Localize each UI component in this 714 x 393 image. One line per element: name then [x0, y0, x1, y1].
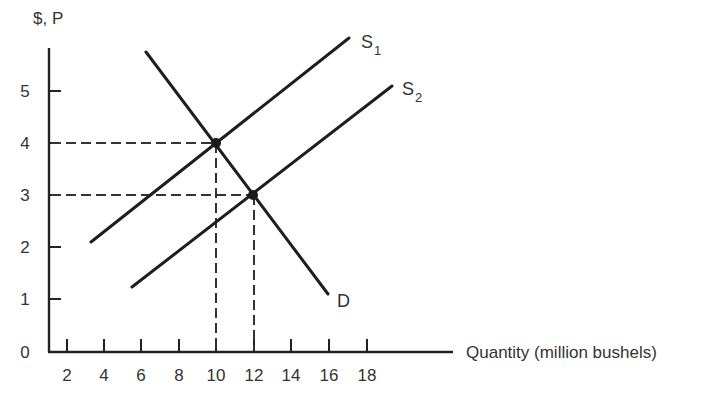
x-tick-label: 16: [320, 366, 339, 385]
label-s2-main: S: [402, 79, 414, 99]
y-tick-label: 5: [20, 82, 29, 101]
y-tick-label: 0: [20, 343, 29, 362]
x-tick-label: 8: [174, 366, 183, 385]
x-tick-label: 12: [245, 366, 264, 385]
label-s2-sub: 2: [415, 90, 422, 105]
x-axis-title: Quantity (million bushels): [466, 343, 657, 362]
label-s2: S 2: [402, 79, 422, 105]
y-tick-label: 3: [20, 186, 29, 205]
x-tick-labels: 2 4 6 8 10 12 14 16 18: [62, 366, 376, 385]
label-s1-sub: 1: [374, 43, 381, 58]
supply-curve-s2: [132, 86, 392, 287]
x-tick-label: 10: [207, 366, 226, 385]
label-s1: S 1: [361, 32, 381, 58]
label-s1-main: S: [361, 32, 373, 52]
label-d: D: [337, 291, 350, 311]
x-tick-label: 2: [62, 366, 71, 385]
equilibrium-point-e1: [211, 138, 221, 148]
x-tick-label: 14: [282, 366, 301, 385]
x-tick-label: 6: [136, 366, 145, 385]
y-axis-title: $, P: [33, 9, 63, 28]
supply-demand-chart: $, P Quantity (million bushels) 5 4 3 2 …: [0, 0, 714, 393]
y-tick-label: 2: [20, 238, 29, 257]
y-tick-label: 1: [20, 290, 29, 309]
equilibrium-point-e2: [248, 190, 258, 200]
y-tick-label: 4: [20, 134, 29, 153]
x-tick-label: 18: [358, 366, 377, 385]
demand-curve-d: [146, 52, 328, 294]
x-tick-label: 4: [99, 366, 108, 385]
y-tick-labels: 5 4 3 2 1 0: [20, 82, 29, 362]
equilibrium-guides: [51, 143, 254, 350]
